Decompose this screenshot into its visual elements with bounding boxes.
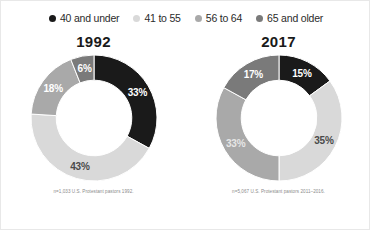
slice-value-label: 6% <box>77 63 91 74</box>
legend-dot-icon <box>195 15 202 22</box>
donut-slice <box>94 55 157 148</box>
chart-sample-note: n=1,033 U.S. Protestant pastors 1992. <box>53 190 133 195</box>
legend-dot-icon <box>256 15 263 22</box>
donut-chart-2017: 2017 15%35%33%17% n=5,067 U.S. Protestan… <box>189 34 369 195</box>
slice-value-label: 17% <box>243 69 263 80</box>
chart-sample-note: n=5,067 U.S. Protestant pastors 2011–201… <box>232 190 325 195</box>
slice-value-label: 43% <box>70 161 90 172</box>
legend-item-label: 56 to 64 <box>206 13 242 24</box>
age-distribution-figure: 40 and under 41 to 55 56 to 64 65 and ol… <box>0 0 370 230</box>
chart-title: 2017 <box>261 34 296 49</box>
legend: 40 and under 41 to 55 56 to 64 65 and ol… <box>1 13 370 24</box>
slice-value-label: 33% <box>127 87 147 98</box>
charts-row: 1992 33%43%18%6% n=1,033 U.S. Protestant… <box>1 34 370 195</box>
legend-item-label: 40 and under <box>60 13 120 24</box>
legend-item: 65 and older <box>256 13 323 24</box>
chart-title: 1992 <box>76 34 111 49</box>
slice-value-label: 15% <box>292 68 312 79</box>
donut-svg-2017: 15%35%33%17% <box>214 53 344 183</box>
legend-item-label: 65 and older <box>267 13 323 24</box>
slice-value-label: 35% <box>314 135 334 146</box>
legend-dot-icon <box>49 15 56 22</box>
slice-value-label: 33% <box>225 138 245 149</box>
donut-svg-1992: 33%43%18%6% <box>29 53 159 183</box>
legend-item: 41 to 55 <box>133 13 180 24</box>
donut-chart-1992: 1992 33%43%18%6% n=1,033 U.S. Protestant… <box>4 34 184 195</box>
donut-graphic: 33%43%18%6% <box>29 53 159 183</box>
legend-dot-icon <box>133 15 140 22</box>
legend-item-label: 41 to 55 <box>144 13 180 24</box>
legend-item: 40 and under <box>49 13 120 24</box>
donut-slice <box>215 88 278 181</box>
donut-slice <box>279 81 342 181</box>
slice-value-label: 18% <box>43 83 63 94</box>
legend-item: 56 to 64 <box>195 13 242 24</box>
donut-graphic: 15%35%33%17% <box>214 53 344 183</box>
